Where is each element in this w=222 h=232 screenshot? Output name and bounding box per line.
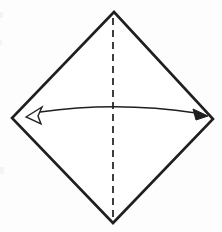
origami-diagram-canvas (0, 0, 222, 232)
origami-step-diagram (0, 0, 222, 232)
